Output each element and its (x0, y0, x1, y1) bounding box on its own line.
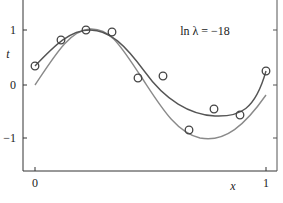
chart: 1 0 −1 0 1 t x ln λ = −18 (0, 0, 283, 203)
fitted-curve (35, 30, 266, 116)
y-tick-label-0: 0 (10, 78, 16, 92)
data-point (108, 28, 116, 36)
axes-frame (23, 0, 277, 171)
data-point (185, 126, 193, 134)
y-tick-label-neg1: −1 (3, 131, 16, 145)
x-tick-label-0: 0 (32, 176, 38, 190)
x-axis-label: x (229, 179, 236, 193)
data-point (210, 105, 218, 113)
data-point (159, 72, 167, 80)
y-tick-label-1: 1 (10, 23, 16, 37)
x-ticks (35, 167, 266, 171)
true-function-curve (35, 29, 266, 139)
y-axis-label: t (6, 47, 10, 61)
y-ticks (23, 30, 277, 138)
x-tick-label-1: 1 (263, 176, 269, 190)
data-point (134, 74, 142, 82)
lambda-annotation: ln λ = −18 (180, 24, 230, 38)
